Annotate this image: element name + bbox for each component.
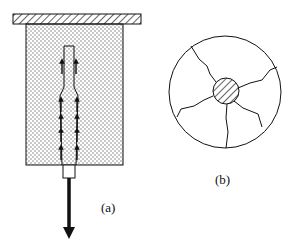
panel-a (13, 14, 141, 239)
pull-arrow-head (63, 227, 75, 239)
panel-a-label: (a) (101, 200, 115, 216)
panel-b (169, 36, 281, 148)
panel-b-label: (b) (215, 172, 230, 188)
rod-stub (63, 165, 75, 178)
rod-cross-section (213, 78, 239, 104)
top-plate (13, 14, 141, 24)
stippled-block (26, 24, 123, 165)
figure-canvas (0, 0, 296, 247)
